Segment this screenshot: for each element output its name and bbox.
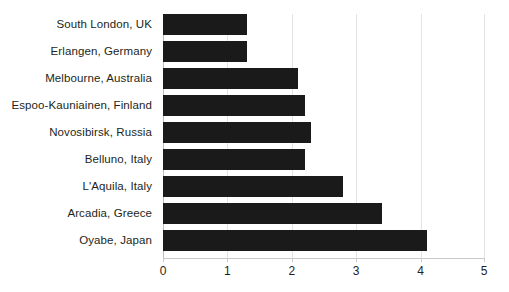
x-axis-line bbox=[163, 258, 485, 259]
category-label: Belluno, Italy bbox=[85, 149, 152, 170]
category-label: Novosibirsk, Russia bbox=[49, 122, 152, 143]
x-tick-mark bbox=[421, 258, 422, 262]
x-tick-mark bbox=[484, 258, 485, 262]
category-label: Espoo-Kauniainen, Finland bbox=[11, 95, 152, 116]
x-tick-mark bbox=[163, 258, 164, 262]
category-label: Melbourne, Australia bbox=[45, 68, 152, 89]
bar bbox=[163, 203, 382, 224]
x-tick-mark bbox=[356, 258, 357, 262]
category-axis-labels: South London, UK Erlangen, Germany Melbo… bbox=[0, 14, 158, 258]
category-label: South London, UK bbox=[56, 14, 152, 35]
x-tick-label: 0 bbox=[148, 264, 178, 278]
bar bbox=[163, 41, 247, 62]
category-label: Oyabe, Japan bbox=[79, 230, 152, 251]
bar bbox=[163, 68, 298, 89]
gridline-5 bbox=[484, 14, 485, 258]
plot-area bbox=[163, 14, 485, 258]
x-tick-label: 4 bbox=[406, 264, 436, 278]
bar-chart: South London, UK Erlangen, Germany Melbo… bbox=[0, 0, 509, 292]
x-tick-mark bbox=[292, 258, 293, 262]
x-tick-label: 5 bbox=[469, 264, 499, 278]
x-tick-label: 2 bbox=[277, 264, 307, 278]
bar bbox=[163, 176, 343, 197]
bar bbox=[163, 122, 311, 143]
x-tick-mark bbox=[227, 258, 228, 262]
bar bbox=[163, 230, 427, 251]
x-tick-label: 1 bbox=[212, 264, 242, 278]
category-label: Erlangen, Germany bbox=[51, 41, 152, 62]
bar bbox=[163, 95, 305, 116]
x-tick-label: 3 bbox=[341, 264, 371, 278]
category-label: Arcadia, Greece bbox=[67, 203, 152, 224]
gridline-4 bbox=[421, 14, 422, 258]
category-label: L'Aquila, Italy bbox=[82, 176, 152, 197]
bar bbox=[163, 149, 305, 170]
bar bbox=[163, 14, 247, 35]
